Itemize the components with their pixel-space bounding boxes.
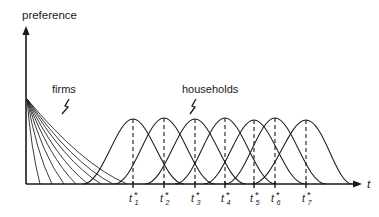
tick-label-t4-star: * (226, 189, 230, 200)
tick-label-t5: t 5 * (250, 189, 261, 207)
annotation-households: households (182, 83, 239, 114)
tick-label-t7-base: t (302, 192, 306, 204)
preference-diagram-figure: t 1 * t 2 * t 3 * t 4 * t 5 * (0, 0, 379, 217)
diagram-canvas: t 1 * t 2 * t 3 * t 4 * t 5 * (0, 0, 379, 217)
firms-label: firms (52, 83, 76, 95)
tick-label-t3: t 3 * (191, 189, 201, 207)
x-axis-label: t (367, 178, 371, 190)
tick-label-t6-base: t (271, 192, 275, 204)
tick-label-t1: t 1 * (129, 189, 139, 207)
tick-label-t2: t 2 * (160, 189, 170, 207)
y-axis-arrow-icon (22, 26, 29, 35)
firm-curves-group (27, 99, 127, 184)
tick-label-t7: t 7 * (302, 189, 313, 207)
x-tick-labels-group: t 1 * t 2 * t 3 * t 4 * t 5 * (129, 189, 313, 207)
household-curve-7 (252, 120, 352, 184)
tick-label-t5-base: t (250, 192, 254, 204)
y-axis-label: preference (22, 9, 77, 21)
firms-leader-line (62, 99, 69, 114)
firm-curve-7 (27, 99, 113, 184)
tick-label-t2-star: * (165, 189, 169, 200)
tick-label-t3-base: t (191, 192, 195, 204)
firm-curve-4 (27, 99, 76, 184)
tick-label-t5-star: * (255, 189, 259, 200)
tick-label-t1-star: * (134, 189, 138, 200)
tick-label-t1-base: t (129, 192, 133, 204)
tick-label-t3-star: * (196, 189, 200, 200)
tick-label-t4: t 4 * (221, 189, 231, 207)
tick-label-t2-base: t (160, 192, 164, 204)
tick-label-t4-base: t (221, 192, 225, 204)
x-axis-arrow-icon (353, 180, 362, 187)
annotation-firms: firms (52, 83, 76, 114)
tick-label-t6: t 6 * (271, 189, 281, 207)
household-curves-group (83, 118, 352, 184)
households-leader-line (190, 99, 196, 114)
tick-label-t6-star: * (276, 189, 280, 200)
tick-label-t7-star: * (307, 189, 311, 200)
households-label: households (182, 83, 239, 95)
firm-curve-8 (27, 99, 127, 184)
axes-group (22, 26, 362, 188)
